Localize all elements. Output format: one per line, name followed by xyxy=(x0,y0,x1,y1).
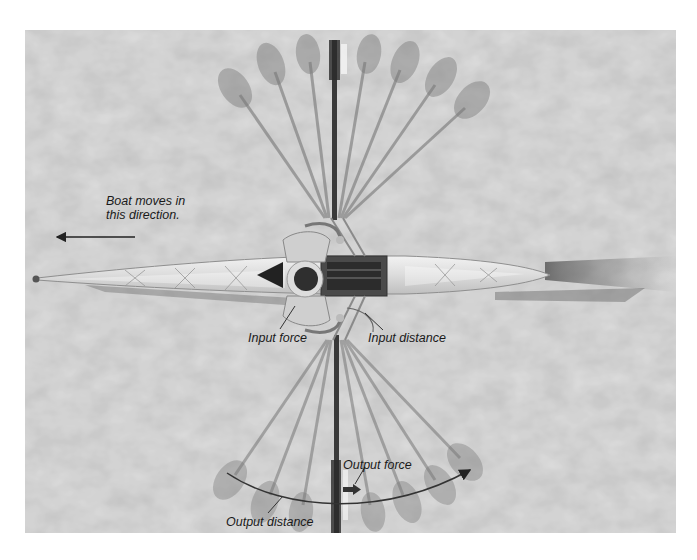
boat-direction-label-line1: Boat moves in xyxy=(106,194,185,208)
input-force-label: Input force xyxy=(248,331,307,345)
boat-direction-label-line2: this direction. xyxy=(106,208,185,222)
output-force-label: Output force xyxy=(343,458,412,472)
bow-ball xyxy=(33,276,40,283)
boat-direction-label: Boat moves in this direction. xyxy=(106,194,185,222)
output-distance-label: Output distance xyxy=(226,515,314,529)
rowing-lever-figure: Boat moves in this direction. Input forc… xyxy=(25,30,676,533)
input-distance-label: Input distance xyxy=(368,331,446,345)
